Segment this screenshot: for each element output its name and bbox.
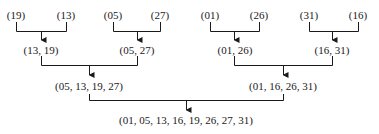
node-l2-01-26: (01, 26) — [218, 44, 253, 56]
node-l1-26: (26) — [250, 9, 268, 21]
node-l1-13: (13) — [57, 9, 75, 21]
node-l1-01: (01) — [201, 9, 219, 21]
node-l3-right: (01, 16, 26, 31) — [249, 80, 317, 92]
node-l1-27: (27) — [151, 9, 169, 21]
node-l2-05-27: (05, 27) — [120, 44, 155, 56]
node-l2-16-31: (16, 31) — [315, 44, 350, 56]
node-l4-result: (01, 05, 13, 16, 19, 26, 27, 31) — [119, 114, 253, 126]
node-l3-left: (05, 13, 19, 27) — [55, 80, 123, 92]
node-l1-05: (05) — [104, 9, 122, 21]
node-l1-31: (31) — [300, 9, 318, 21]
node-l1-16: (16) — [349, 9, 367, 21]
node-l1-19: (19) — [7, 9, 25, 21]
node-l2-13-19: (13, 19) — [24, 44, 59, 56]
